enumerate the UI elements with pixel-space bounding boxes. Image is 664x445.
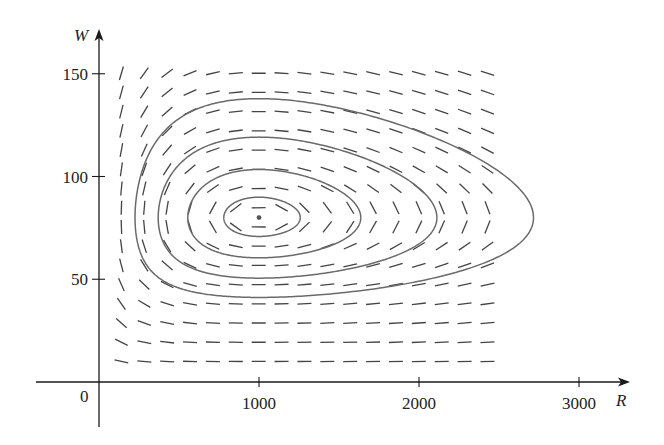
field-segment: [412, 283, 426, 286]
field-segment: [206, 284, 220, 286]
field-segment: [459, 166, 471, 174]
field-segment: [141, 106, 148, 118]
field-segment: [120, 86, 124, 100]
field-segment: [137, 361, 151, 362]
field-segment: [437, 184, 447, 193]
field-segment: [481, 147, 493, 153]
field-segment: [160, 341, 174, 343]
field-segment: [206, 148, 219, 153]
field-segment: [346, 221, 354, 233]
field-segment: [229, 130, 243, 132]
field-segment: [435, 128, 448, 133]
direction-field: [115, 67, 495, 363]
field-segment: [229, 111, 243, 113]
field-segment: [321, 167, 334, 171]
y-axis-label: W: [74, 26, 90, 45]
field-segment: [229, 149, 243, 151]
field-segment: [390, 243, 402, 250]
equilibrium-point: [257, 215, 262, 220]
field-segment: [435, 90, 448, 94]
field-segment: [390, 184, 401, 193]
field-segment: [186, 183, 195, 194]
field-segment: [320, 323, 334, 324]
origin-label: 0: [80, 387, 89, 406]
field-segment: [275, 92, 289, 93]
field-segment: [320, 284, 334, 286]
field-segment: [481, 90, 494, 95]
y-tick-label: 50: [71, 270, 88, 289]
field-segment: [119, 67, 123, 80]
field-segment: [299, 222, 309, 232]
field-segment: [160, 361, 174, 362]
field-segment: [120, 162, 122, 176]
field-segment: [137, 341, 151, 344]
field-segment: [207, 185, 219, 193]
field-segment: [298, 186, 311, 191]
field-segment: [323, 221, 332, 232]
field-segment: [297, 92, 311, 94]
field-segment: [481, 303, 495, 305]
field-segment: [275, 204, 287, 211]
field-segment: [458, 342, 472, 343]
field-segment: [481, 322, 495, 323]
field-segment: [119, 278, 125, 291]
field-segment: [412, 147, 425, 153]
field-segment: [275, 149, 289, 151]
field-segment: [343, 303, 357, 304]
field-segment: [435, 109, 448, 114]
field-segment: [142, 240, 146, 253]
field-segment: [389, 110, 402, 114]
field-segment: [207, 166, 220, 172]
field-segment: [320, 264, 334, 267]
x-tick-label: 3000: [562, 394, 596, 413]
field-segment: [344, 167, 357, 172]
field-segment: [297, 72, 311, 74]
field-segment: [412, 263, 425, 267]
field-segment: [481, 283, 495, 286]
field-segment: [206, 91, 220, 94]
field-segment: [115, 339, 128, 345]
field-segment: [458, 322, 472, 323]
field-segment: [275, 111, 289, 112]
field-segment: [162, 107, 172, 116]
field-segment: [298, 264, 312, 266]
field-segment: [323, 202, 331, 213]
field-segment: [481, 128, 494, 134]
field-segment: [121, 182, 122, 196]
y-tick-label: 100: [63, 168, 89, 187]
field-segment: [275, 187, 289, 190]
field-segment: [366, 72, 380, 75]
field-segment: [482, 242, 493, 250]
field-segment: [416, 221, 422, 234]
field-segment: [436, 242, 448, 250]
field-segment: [370, 202, 377, 214]
field-segment: [121, 201, 122, 215]
field-segment: [462, 220, 467, 233]
field-segment: [160, 322, 174, 325]
field-segment: [343, 91, 357, 94]
field-segment: [210, 202, 217, 214]
field-segment: [413, 166, 425, 173]
field-segment: [435, 322, 449, 323]
field-segment: [121, 220, 122, 234]
field-segment: [458, 71, 471, 75]
field-segment: [184, 71, 197, 76]
field-segment: [183, 342, 197, 343]
field-segment: [184, 90, 197, 96]
field-segment: [138, 300, 150, 307]
field-segment: [120, 124, 123, 138]
field-segment: [115, 360, 129, 363]
field-segment: [412, 323, 426, 324]
field-segment: [162, 69, 173, 77]
field-segment: [138, 321, 151, 326]
field-segment: [435, 147, 448, 153]
field-segment: [485, 220, 490, 233]
field-segment: [367, 184, 378, 192]
field-segment: [367, 243, 379, 249]
y-tick-label: 150: [63, 65, 89, 84]
x-tick-label: 2000: [402, 394, 436, 413]
field-segment: [435, 263, 448, 267]
field-segment: [366, 284, 380, 286]
field-segment: [366, 323, 380, 324]
field-segment: [366, 129, 379, 133]
